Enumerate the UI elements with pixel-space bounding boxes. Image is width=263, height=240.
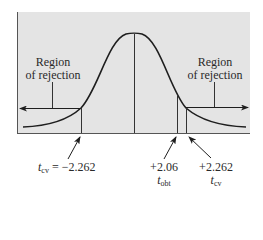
obtained-label: +2.06 tobt <box>146 161 182 190</box>
right-critical-label: +2.262 tcv <box>195 161 237 190</box>
obtained-value: +2.06 <box>146 161 182 174</box>
right-critical-value: +2.262 <box>195 161 237 174</box>
left-critical-value: −2.262 <box>62 160 96 174</box>
cv-subscript: cv <box>214 179 222 188</box>
obt-subscript: obt <box>161 179 171 188</box>
obtained-pointer <box>164 137 176 159</box>
left-critical-pointer <box>68 137 80 159</box>
left-region-label: Region of rejection <box>18 56 88 82</box>
equals-sign: = <box>49 160 62 174</box>
right-region-label: Region of rejection <box>180 56 250 82</box>
cv-subscript: cv <box>41 166 49 175</box>
left-critical-label: tcv = −2.262 <box>38 161 95 177</box>
left-region-line2: of rejection <box>18 69 88 82</box>
right-critical-pointer <box>189 137 211 158</box>
right-region-line2: of rejection <box>180 69 250 82</box>
